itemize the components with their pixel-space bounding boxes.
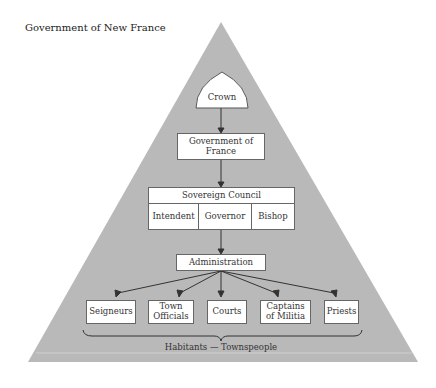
node-crown: Crown xyxy=(196,92,248,102)
node-governor: Governor xyxy=(198,203,252,230)
node-captains-of-militia: Captains of Militia xyxy=(260,300,311,324)
node-habitants-townspeople: Habitants — Townspeople xyxy=(150,342,292,352)
node-bishop: Bishop xyxy=(251,203,295,230)
node-administration: Administration xyxy=(176,254,266,271)
node-priests: Priests xyxy=(324,300,359,324)
node-sovereign-council: Sovereign Council xyxy=(148,187,295,204)
node-town-officials: Town Officials xyxy=(148,300,194,324)
node-intendent: Intendent xyxy=(148,203,199,230)
node-seigneurs: Seigneurs xyxy=(86,300,136,324)
node-courts: Courts xyxy=(207,300,247,324)
node-government-of-france: Government of France xyxy=(177,133,265,160)
